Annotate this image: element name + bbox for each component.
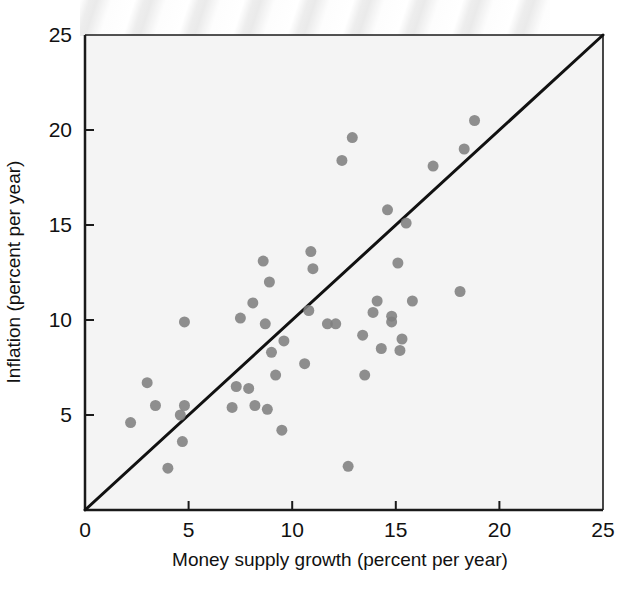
data-point	[401, 218, 412, 229]
data-point	[177, 436, 188, 447]
scatter-plot-figure: 0510152025510152025 Money supply growth …	[0, 0, 632, 592]
data-point	[407, 296, 418, 307]
x-tick-label-0: 0	[79, 518, 91, 542]
x-tick-label-25: 25	[591, 518, 614, 542]
y-tick-label-5: 5	[60, 403, 72, 427]
data-point	[469, 115, 480, 126]
data-point	[125, 417, 136, 428]
data-point	[179, 316, 190, 327]
y-tick-label-10: 10	[49, 308, 72, 332]
data-point	[299, 358, 310, 369]
y-tick-label-25: 25	[49, 23, 72, 47]
data-point	[428, 161, 439, 172]
plot-canvas	[0, 0, 632, 592]
data-point	[150, 400, 161, 411]
data-point	[392, 258, 403, 269]
data-point	[262, 404, 273, 415]
data-point	[231, 381, 242, 392]
data-point	[276, 425, 287, 436]
data-point	[235, 313, 246, 324]
x-axis-title: Money supply growth (percent per year)	[172, 549, 508, 571]
data-point	[368, 307, 379, 318]
data-point	[258, 256, 269, 267]
data-point	[243, 383, 254, 394]
y-tick-label-20: 20	[49, 118, 72, 142]
data-point	[305, 246, 316, 257]
data-point	[227, 402, 238, 413]
data-point	[386, 316, 397, 327]
data-point	[175, 410, 186, 421]
data-point	[303, 305, 314, 316]
data-point	[330, 318, 341, 329]
y-axis-title: Inflation (percent per year)	[3, 161, 25, 384]
data-point	[343, 461, 354, 472]
data-point	[247, 297, 258, 308]
data-point	[357, 330, 368, 341]
x-tick-label-5: 5	[183, 518, 195, 542]
data-point	[278, 335, 289, 346]
data-point	[260, 318, 271, 329]
data-point	[382, 204, 393, 215]
y-tick-label-15: 15	[49, 213, 72, 237]
data-point	[394, 345, 405, 356]
x-tick-label-20: 20	[488, 518, 511, 542]
data-point	[347, 132, 358, 143]
data-point	[162, 463, 173, 474]
data-point	[459, 144, 470, 155]
data-point	[249, 400, 260, 411]
x-tick-label-15: 15	[384, 518, 407, 542]
data-point	[264, 277, 275, 288]
data-point	[266, 347, 277, 358]
data-point	[376, 343, 387, 354]
data-point	[359, 370, 370, 381]
data-point	[270, 370, 281, 381]
data-point	[307, 263, 318, 274]
data-point	[455, 286, 466, 297]
data-point	[336, 155, 347, 166]
data-point	[179, 400, 190, 411]
x-tick-label-10: 10	[281, 518, 304, 542]
data-point	[372, 296, 383, 307]
data-point	[142, 377, 153, 388]
data-point	[397, 334, 408, 345]
